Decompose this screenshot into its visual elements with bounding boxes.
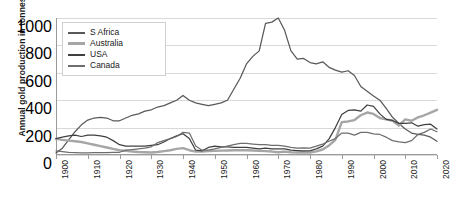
x-tick-label: 2000	[378, 160, 388, 179]
x-tick-label: 1990	[346, 160, 356, 179]
chart-legend: S Africa Australia USA Canada	[62, 22, 166, 76]
x-tick-label: 2010	[409, 160, 419, 179]
x-tick-mark	[88, 155, 89, 159]
x-tick-mark	[151, 155, 152, 159]
legend-label-s-africa: S Africa	[90, 27, 119, 38]
x-tick-label: 1960	[251, 160, 261, 179]
x-tick-label: 2020	[441, 160, 451, 179]
legend-swatch-canada	[68, 65, 85, 67]
x-tick-label: 1980	[314, 160, 324, 179]
legend-label-australia: Australia	[90, 38, 123, 49]
x-tick-label: 1920	[124, 160, 134, 179]
x-tick-mark	[183, 155, 184, 159]
x-tick-label: 1940	[187, 160, 197, 179]
legend-label-usa: USA	[90, 49, 107, 60]
x-tick-mark	[120, 155, 121, 159]
x-tick-mark	[278, 155, 279, 159]
y-tick-label: 0	[43, 155, 52, 173]
y-tick-label: 1000	[16, 18, 52, 36]
x-tick-mark	[56, 155, 57, 159]
x-tick-label: 1910	[92, 160, 102, 179]
x-tick-mark	[310, 155, 311, 159]
legend-item-usa: USA	[68, 49, 160, 60]
x-tick-label: 1970	[282, 160, 292, 179]
series-line-usa	[56, 105, 437, 151]
legend-swatch-australia	[68, 42, 85, 45]
legend-item-australia: Australia	[68, 38, 160, 49]
x-tick-mark	[342, 155, 343, 159]
y-tick-label: 800	[25, 45, 52, 63]
y-tick-label: 400	[25, 100, 52, 118]
legend-item-canada: Canada	[68, 60, 160, 71]
legend-swatch-s-africa	[68, 32, 85, 34]
x-tick-label: 1950	[219, 160, 229, 179]
legend-item-s-africa: S Africa	[68, 27, 160, 38]
series-line-australia	[56, 110, 437, 153]
legend-swatch-usa	[68, 54, 85, 56]
legend-label-canada: Canada	[90, 60, 120, 71]
y-tick-label: 200	[25, 128, 52, 146]
x-tick-label: 1930	[155, 160, 165, 179]
x-tick-mark	[374, 155, 375, 159]
x-tick-label: 1900	[60, 160, 70, 179]
x-tick-mark	[437, 155, 438, 159]
y-tick-label: 600	[25, 73, 52, 91]
x-tick-mark	[405, 155, 406, 159]
x-tick-mark	[247, 155, 248, 159]
x-tick-mark	[215, 155, 216, 159]
